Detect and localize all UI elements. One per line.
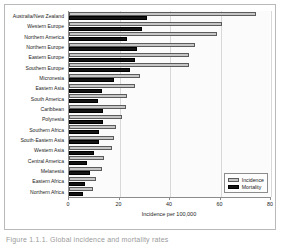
bar-mortality (69, 151, 94, 155)
x-tick-label: 40 (166, 201, 172, 207)
bar-incidence (69, 156, 104, 160)
y-axis-label: Eastern Europe (29, 52, 64, 62)
bar-mortality (69, 140, 99, 144)
x-tick-label: 0 (67, 201, 70, 207)
y-axis-label: Caribbean (40, 104, 64, 114)
y-axis-label: South America (31, 94, 64, 104)
bar-row (69, 21, 270, 31)
bar-incidence (69, 94, 127, 98)
bar-row (69, 145, 270, 155)
y-axis-labels: Australia/New ZealandWestern EuropeNorth… (5, 11, 66, 197)
bar-row (69, 11, 270, 21)
bar-mortality (69, 27, 142, 31)
x-tick (169, 197, 170, 200)
bar-mortality (69, 182, 85, 186)
bar-incidence (69, 12, 256, 16)
y-axis-label: Eastern Africa (32, 176, 64, 186)
bar-mortality (69, 37, 127, 41)
bar-incidence (69, 115, 122, 119)
bar-incidence (69, 32, 217, 36)
bar-row (69, 42, 270, 52)
bar-mortality (69, 78, 114, 82)
bar-incidence (69, 22, 222, 26)
bar-incidence (69, 187, 93, 191)
x-tick (68, 197, 69, 200)
bar-mortality (69, 109, 103, 113)
bar-row (69, 52, 270, 62)
x-tick-label: 60 (217, 201, 223, 207)
bar-row (69, 104, 270, 114)
bar-incidence (69, 74, 140, 78)
y-axis-label: South-Eastern Asia (20, 135, 64, 145)
chart-legend: Incidence Mortality (224, 173, 268, 193)
bar-mortality (69, 171, 90, 175)
bar-row (69, 32, 270, 42)
bar-incidence (69, 136, 114, 140)
figure-caption: Figure 1.1.1. Global incidence and morta… (6, 236, 276, 247)
bar-incidence (69, 167, 102, 171)
y-axis-label: Central America (28, 156, 64, 166)
gridline (271, 11, 272, 197)
x-tick (220, 197, 221, 200)
bar-mortality (69, 89, 102, 93)
bar-row (69, 73, 270, 83)
legend-swatch-incidence (228, 178, 239, 182)
y-axis-label: Northern America (24, 32, 64, 42)
y-axis-label: Southern Europe (25, 63, 64, 73)
bar-incidence (69, 146, 112, 150)
bar-incidence (69, 177, 96, 181)
bar-mortality (69, 47, 137, 51)
legend-label-mortality: Mortality (242, 184, 262, 190)
bar-incidence (69, 84, 135, 88)
y-axis-label: Eastern Asia (35, 83, 64, 93)
bar-mortality (69, 130, 99, 134)
bar-mortality (69, 58, 135, 62)
y-axis-label: Australia/New Zealand (13, 11, 64, 21)
plot-area (68, 11, 270, 197)
legend-label-incidence: Incidence (242, 177, 264, 183)
legend-swatch-mortality (228, 185, 239, 189)
bar-mortality (69, 161, 87, 165)
x-tick (270, 197, 271, 200)
bar-mortality (69, 68, 130, 72)
y-axis-label: Northern Africa (30, 187, 64, 197)
bar-row (69, 94, 270, 104)
y-axis-label: Melanesia (41, 166, 64, 176)
bar-row (69, 135, 270, 145)
y-axis-label: Western Europe (27, 21, 64, 31)
bar-row (69, 83, 270, 93)
x-tick-label: 80 (267, 201, 273, 207)
bar-mortality (69, 16, 147, 20)
y-axis-label: Western Asia (34, 145, 64, 155)
y-axis-label: Southern Africa (29, 125, 64, 135)
bar-incidence (69, 63, 189, 67)
x-tick (119, 197, 120, 200)
bar-incidence (69, 53, 189, 57)
legend-item-mortality: Mortality (228, 183, 264, 190)
bar-incidence (69, 125, 116, 129)
y-axis-label: Polynesia (42, 114, 64, 124)
x-tick-label: 20 (116, 201, 122, 207)
bar-mortality (69, 99, 98, 103)
bar-row (69, 156, 270, 166)
y-axis-label: Northern Europe (26, 42, 64, 52)
bar-row (69, 114, 270, 124)
bar-rows (69, 11, 270, 197)
legend-item-incidence: Incidence (228, 176, 264, 183)
figure-panel: Australia/New ZealandWestern EuropeNorth… (4, 4, 276, 230)
bar-mortality (69, 120, 103, 124)
bar-row (69, 63, 270, 73)
x-axis-title: Incidence per 100,000 (68, 211, 270, 217)
bar-incidence (69, 43, 195, 47)
y-axis-label: Micronesia (39, 73, 64, 83)
bar-incidence (69, 105, 126, 109)
bar-mortality (69, 192, 83, 196)
bar-row (69, 125, 270, 135)
